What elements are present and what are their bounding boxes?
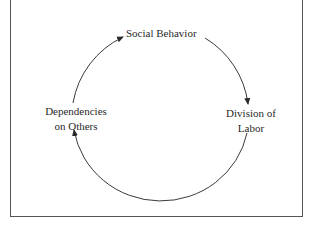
node-label-line1: Division of — [221, 106, 281, 121]
node-dependencies-on-others: Dependencies on Others — [40, 104, 112, 134]
node-division-of-labor: Division of Labor — [221, 106, 281, 136]
node-label-line2: on Others — [40, 119, 112, 134]
arrow-social-to-division — [205, 38, 248, 104]
node-social-behavior: Social Behavior — [126, 26, 197, 41]
node-label-line1: Dependencies — [40, 104, 112, 119]
node-label: Social Behavior — [126, 27, 197, 39]
arrow-dependencies-to-social — [73, 37, 123, 103]
arrow-division-to-dependencies — [74, 130, 247, 201]
node-label-line2: Labor — [221, 121, 281, 136]
